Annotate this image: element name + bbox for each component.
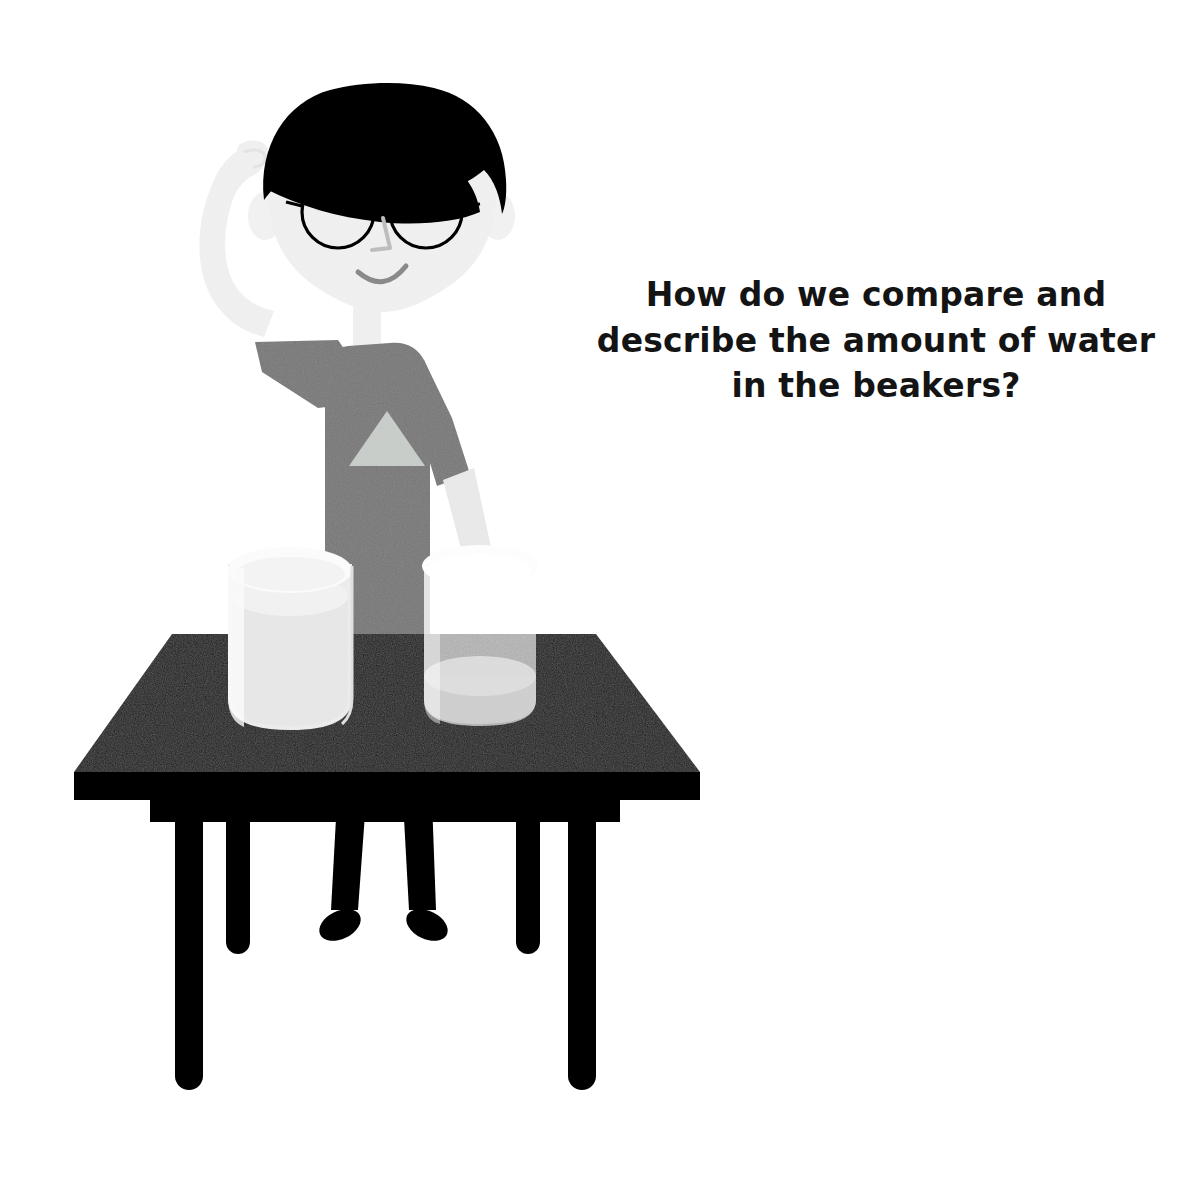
table-leg-back-left (226, 800, 250, 954)
table-top-surface (74, 634, 700, 772)
beaker-right-water-surface (424, 656, 536, 696)
table-leg-front-right (568, 800, 596, 1090)
glasses-temple-right (462, 204, 480, 206)
boy-eye-right (425, 200, 440, 215)
beaker-left-rim-inner (235, 557, 345, 591)
beaker-left-highlight (228, 566, 244, 727)
scene-illustration (0, 0, 1201, 1178)
beaker-right (422, 545, 538, 726)
table-apron (150, 800, 620, 822)
question-text: How do we compare and describe the amoun… (590, 272, 1162, 409)
table-leg-back-right (516, 800, 540, 954)
table-leg-front-left (175, 800, 203, 1090)
beaker-left (228, 547, 352, 730)
boy-eye-left (337, 200, 352, 215)
beaker-right-highlight (424, 566, 440, 724)
table-front-edge (74, 772, 700, 800)
illustration-page: How do we compare and describe the amoun… (0, 0, 1201, 1178)
beaker-right-rim-inner (428, 554, 532, 586)
